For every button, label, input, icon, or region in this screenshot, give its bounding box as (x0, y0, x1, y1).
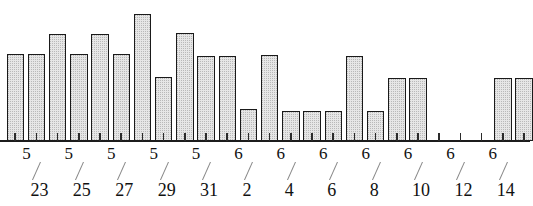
axis-tick (481, 133, 483, 141)
axis-tick (99, 133, 101, 141)
axis-tick (120, 133, 122, 141)
tick-label-month: 5 (101, 143, 121, 164)
axis-tick (523, 133, 525, 141)
axis-tick (502, 133, 504, 141)
tick-label-slash-icon (285, 162, 299, 180)
bar (91, 34, 109, 141)
axis-tick (417, 133, 419, 141)
tick-label-slash-icon (73, 162, 87, 180)
axis-tick (248, 133, 250, 141)
tick-label-slash-icon (242, 162, 256, 180)
tick-label-month: 6 (313, 143, 333, 164)
tick-label-month: 6 (228, 143, 248, 164)
tick-label-month: 6 (440, 143, 460, 164)
axis-tick (14, 133, 16, 141)
tick-label-month: 5 (59, 143, 79, 164)
axis-tick (460, 133, 462, 141)
tick-label-slash-icon (115, 162, 129, 180)
axis-tick (438, 133, 440, 141)
axis-tick (163, 133, 165, 141)
tick-label-slash-icon (158, 162, 172, 180)
bar (176, 33, 194, 141)
tick-label-month: 5 (16, 143, 36, 164)
bar (28, 54, 46, 141)
tick-label-slash-icon (200, 162, 214, 180)
axis-tick (184, 133, 186, 141)
tick-label-slash-icon (327, 162, 341, 180)
x-axis-tick-labels: 52352552752953162646668610612614 (0, 143, 530, 206)
axis-tick (57, 133, 59, 141)
axis-tick (396, 133, 398, 141)
axis-tick (205, 133, 207, 141)
x-axis-ticks (0, 132, 530, 141)
tick-label-month: 5 (186, 143, 206, 164)
bar (219, 56, 237, 141)
axis-tick (142, 133, 144, 141)
bar (134, 14, 152, 141)
axis-tick (290, 133, 292, 141)
tick-label-month: 6 (356, 143, 376, 164)
tick-label-slash-icon (412, 162, 426, 180)
tick-label-slash-icon (30, 162, 44, 180)
axis-tick (226, 133, 228, 141)
bar (113, 54, 131, 141)
axis-tick (311, 133, 313, 141)
bar (49, 34, 67, 141)
axis-tick (269, 133, 271, 141)
tick-label-slash-icon (370, 162, 384, 180)
tick-label-slash-icon (497, 162, 511, 180)
axis-tick (332, 133, 334, 141)
tick-label-month: 6 (483, 143, 503, 164)
bar (261, 55, 279, 141)
bar (7, 54, 25, 141)
bar (70, 54, 88, 141)
axis-tick (78, 133, 80, 141)
bar (346, 56, 364, 141)
plot-area (0, 0, 530, 141)
date-tick-label: 614 (477, 143, 529, 205)
axis-tick (375, 133, 377, 141)
tick-label-month: 6 (398, 143, 418, 164)
tick-label-slash-icon (454, 162, 468, 180)
tick-label-month: 5 (144, 143, 164, 164)
tick-label-month: 6 (271, 143, 291, 164)
tick-label-day: 14 (497, 179, 531, 201)
bar (197, 56, 215, 141)
axis-tick (36, 133, 38, 141)
axis-tick (354, 133, 356, 141)
